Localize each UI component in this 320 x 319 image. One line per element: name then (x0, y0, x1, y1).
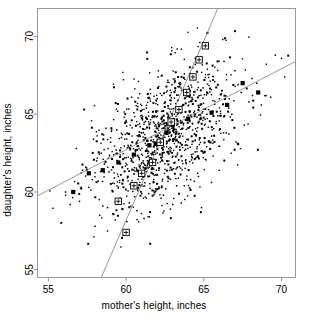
data-point (160, 198, 162, 200)
data-point (99, 215, 101, 217)
data-point (153, 139, 154, 140)
data-point (209, 91, 210, 92)
sd-line-marker (196, 57, 202, 63)
regression-marker (101, 168, 105, 172)
data-point (177, 86, 178, 87)
data-point (102, 138, 104, 140)
data-point (162, 152, 164, 154)
data-point (284, 76, 286, 78)
data-point (173, 91, 175, 93)
data-point (101, 217, 102, 218)
data-point (149, 98, 150, 99)
data-point (178, 177, 179, 178)
data-point (209, 120, 211, 122)
data-point (121, 237, 123, 239)
y-tick-label: 70 (24, 30, 35, 42)
data-point (167, 163, 169, 165)
data-point (143, 124, 144, 125)
data-point (209, 148, 211, 150)
data-point (76, 148, 78, 150)
data-point (107, 207, 109, 209)
data-point (117, 215, 119, 217)
data-point (218, 146, 219, 147)
data-point (168, 82, 169, 83)
data-point (205, 77, 206, 78)
data-point (193, 91, 194, 92)
data-point (142, 160, 144, 162)
data-point (161, 159, 163, 161)
data-point (175, 129, 176, 130)
data-point (131, 141, 133, 143)
data-point (139, 166, 140, 167)
data-point (231, 119, 233, 121)
data-point (213, 135, 215, 137)
data-point (146, 58, 148, 60)
data-point (197, 96, 199, 98)
data-point (248, 101, 250, 103)
data-point (281, 58, 283, 60)
data-point (208, 85, 209, 86)
data-point (186, 144, 187, 145)
data-point (141, 163, 142, 164)
data-point (143, 122, 144, 123)
data-point (49, 190, 50, 191)
data-point (287, 55, 289, 57)
data-point (134, 196, 136, 198)
data-point (126, 132, 128, 134)
data-point (195, 134, 197, 136)
data-point (131, 127, 132, 128)
data-point (87, 243, 89, 245)
data-point (183, 123, 184, 124)
data-point (142, 119, 143, 120)
data-point (138, 184, 140, 186)
data-point (201, 207, 203, 209)
data-point (182, 104, 184, 106)
data-point (185, 148, 186, 149)
data-point (188, 86, 190, 88)
data-point (212, 79, 213, 80)
data-point (137, 187, 139, 189)
data-point (198, 114, 199, 115)
data-point (141, 162, 142, 163)
y-tick-label: 65 (24, 108, 35, 120)
data-point (92, 152, 94, 154)
data-point (152, 173, 154, 175)
data-point (203, 103, 204, 104)
data-point (171, 128, 172, 129)
data-point (167, 80, 168, 81)
data-point (52, 208, 53, 209)
data-point (149, 176, 150, 177)
data-point (140, 149, 141, 150)
data-point (111, 129, 112, 130)
data-point (231, 114, 233, 116)
regression-marker (225, 103, 229, 107)
data-point (149, 128, 150, 129)
data-point (141, 147, 142, 148)
data-point (156, 127, 158, 129)
data-point (179, 166, 180, 167)
data-point (192, 140, 194, 142)
data-point (195, 100, 197, 102)
data-point (170, 167, 172, 169)
plot-border (38, 9, 296, 278)
data-point (145, 121, 146, 122)
data-point (129, 202, 131, 204)
data-point (113, 172, 114, 173)
data-point (134, 116, 135, 117)
data-point (175, 168, 176, 169)
data-point (181, 144, 183, 146)
data-point (207, 118, 208, 119)
data-point (151, 117, 152, 118)
data-point (149, 183, 150, 184)
data-point (115, 219, 117, 221)
data-point (186, 179, 188, 181)
data-point (146, 148, 147, 149)
data-point (166, 122, 167, 123)
data-point (148, 193, 150, 195)
data-point (109, 155, 110, 156)
data-point (217, 84, 219, 86)
data-point (141, 105, 142, 106)
data-point (103, 176, 104, 177)
sd-line-marker (131, 183, 137, 189)
data-point (171, 97, 172, 98)
